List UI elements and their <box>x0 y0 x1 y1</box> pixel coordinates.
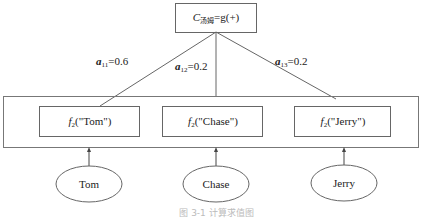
function-label-jerry: f2("Jerry") <box>295 116 391 129</box>
root-subscript: 汤姆 <box>200 17 214 25</box>
weight-subscript: 13 <box>281 61 288 69</box>
weight-label-a11: a11=0.6 <box>96 56 128 69</box>
weight-value: =0.6 <box>108 55 128 67</box>
figure-caption: 图 3-1 计算求值图 <box>0 206 433 219</box>
weight-subscript: 12 <box>181 66 188 74</box>
weight-value: =0.2 <box>188 60 208 72</box>
function-label-chase: f2("Chase") <box>163 116 263 129</box>
root-node-label: C汤姆=g(+) <box>175 12 257 25</box>
input-label-jerry: Jerry <box>311 178 377 189</box>
input-label-chase: Chase <box>183 179 249 190</box>
weight-value: =0.2 <box>288 55 308 67</box>
input-label-tom: Tom <box>56 179 122 190</box>
root-symbol: C <box>193 11 200 23</box>
weight-label-a12: a12=0.2 <box>175 61 207 74</box>
root-expression: =g(+) <box>214 11 239 23</box>
function-arg: ("Jerry") <box>327 115 365 127</box>
function-arg: ("Chase") <box>195 115 238 127</box>
weight-label-a13: a13=0.2 <box>275 56 307 69</box>
function-label-tom: f2("Tom") <box>40 116 140 129</box>
function-arg: ("Tom") <box>75 115 111 127</box>
